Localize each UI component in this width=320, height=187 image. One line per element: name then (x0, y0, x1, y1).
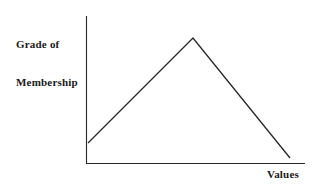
y-axis-label-line-1: Grade of (16, 38, 78, 51)
y-axis-label: Grade of Membership (16, 13, 78, 113)
axes-group (86, 16, 305, 164)
x-axis-label: Values (267, 168, 299, 181)
data-group (88, 38, 290, 158)
triangular-membership-curve (88, 38, 290, 158)
y-axis-label-line-2: Membership (16, 76, 78, 89)
fuzzy-membership-figure: Grade of Membership Values (0, 0, 320, 187)
